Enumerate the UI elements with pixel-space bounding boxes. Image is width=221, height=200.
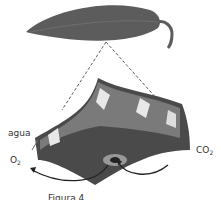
leaf-stomata-diagram: [0, 0, 221, 200]
leaf-icon: [26, 5, 172, 48]
oxygen-label: O2: [10, 155, 21, 166]
leaf-cross-section: [35, 78, 190, 185]
figure-caption: Figura 4: [48, 193, 84, 200]
co2-text: CO: [196, 145, 209, 155]
co2-label: CO2: [196, 145, 213, 156]
co2-subscript: 2: [209, 149, 213, 156]
water-label: agua: [8, 128, 30, 138]
oxygen-subscript: 2: [17, 159, 21, 166]
